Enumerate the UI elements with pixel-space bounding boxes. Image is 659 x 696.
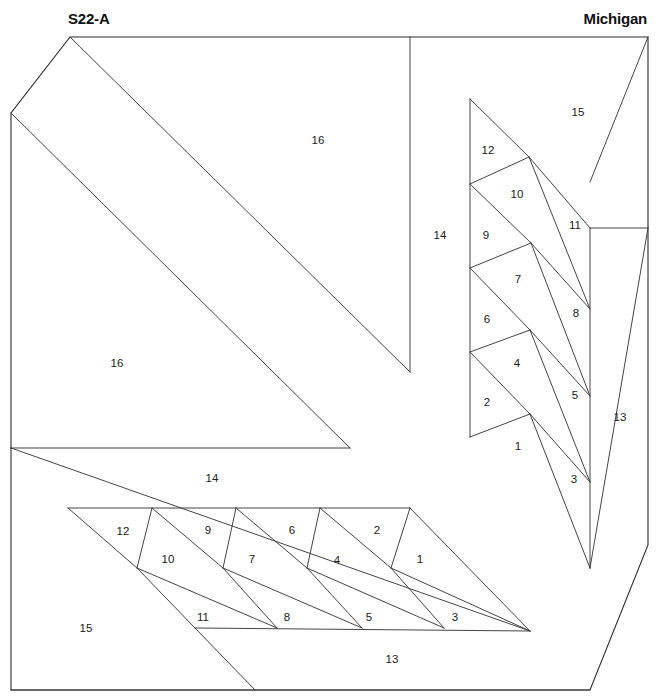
piece-number-label-u11: 11 [569,219,581,231]
piece-number-label-u4: 4 [514,357,521,369]
seam-line-14 [529,157,590,309]
seam-line-44 [410,508,530,631]
piece-number-label-l9: 9 [205,524,211,536]
seam-line-28 [137,508,152,568]
seam-line-42 [391,568,530,631]
seam-line-38 [223,568,362,628]
seam-line-43 [195,628,530,631]
seam-line-19 [530,414,590,482]
piece-number-label-l15: 15 [80,622,93,634]
seam-line-39 [307,568,362,628]
seam-line-22 [590,37,648,182]
seam-line-31 [236,508,307,568]
piece-number-label-u8: 8 [573,307,579,319]
seam-line-33 [320,508,391,568]
seam-line-30 [223,508,236,568]
seam-line-12 [470,414,530,437]
seam-line-27 [68,508,137,568]
piece-number-label-l13: 13 [386,653,399,665]
piece-number-label-u16b: 16 [111,357,124,369]
seam-line-24 [590,228,648,568]
piece-number-label-u5: 5 [572,389,578,401]
piece-number-label-l3: 3 [452,611,458,623]
piece-number-label-u16a: 16 [312,134,325,146]
piece-number-label-u9: 9 [483,229,489,241]
piece-number-label-u15: 15 [572,106,585,118]
seam-line-11 [470,352,530,414]
piece-number-label-l7: 7 [249,553,255,565]
piece-labels-lower-unit: 141513121097642111853 [80,472,459,665]
piece-number-label-l11: 11 [197,611,209,623]
seam-line-18 [530,330,590,482]
seam-line-35 [137,568,195,628]
piece-number-label-u6: 6 [484,313,490,325]
piece-number-label-l4: 4 [334,554,341,566]
seam-lines [11,37,648,690]
seam-line-0 [70,37,410,372]
piece-number-label-l12: 12 [117,525,130,537]
seam-line-34 [391,508,410,568]
seam-line-6 [470,157,529,184]
piece-number-label-l10: 10 [162,553,175,565]
piece-number-label-u10: 10 [511,188,524,200]
piece-number-label-l14: 14 [206,472,219,484]
seam-line-25 [11,448,530,631]
piece-number-label-l5: 5 [366,611,372,623]
seam-line-46 [195,628,255,690]
piece-number-label-l1: 1 [417,553,423,565]
piece-number-label-u3: 3 [571,473,577,485]
seam-line-20 [530,414,590,568]
piece-number-label-u13: 13 [614,411,627,423]
seam-line-32 [307,508,320,568]
piece-number-label-u2: 2 [484,396,490,408]
foundation-pattern-diagram: 1616151413121110987654213 14151312109764… [0,0,659,696]
piece-number-label-l8: 8 [284,611,290,623]
piece-number-label-u1: 1 [515,440,521,452]
piece-number-label-u7: 7 [515,273,521,285]
piece-number-label-u12: 12 [482,144,495,156]
seam-line-16 [531,243,590,396]
seam-line-1 [11,113,350,448]
piece-number-label-l2: 2 [374,524,380,536]
seam-line-10 [470,330,530,352]
seam-line-8 [470,243,531,268]
pattern-page: S22-A Michigan 1616151413121110987654213… [0,0,659,696]
piece-number-label-l6: 6 [289,524,295,536]
piece-labels-upper-unit: 1616151413121110987654213 [111,106,627,485]
piece-number-label-u14: 14 [434,229,447,241]
seam-line-17 [530,330,590,396]
seam-line-15 [531,243,590,309]
seam-line-37 [223,568,277,628]
seam-line-13 [529,157,590,228]
seam-line-5 [470,99,529,157]
